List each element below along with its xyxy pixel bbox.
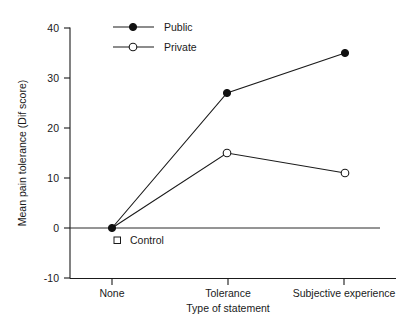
data-point-public-subjective-experience [341,49,348,56]
legend-marker-public [129,23,136,30]
y-tick-label-minus10: -10 [44,272,59,284]
data-point-private-subjective-experience [341,169,349,177]
y-tick-label-20: 20 [47,122,59,134]
figure-container: 40 30 20 10 0 -10 Mean pain tolerance (D… [0,0,411,321]
y-tick-label-10: 10 [47,172,59,184]
legend: Public Private [113,21,197,53]
x-tick-label-tolerance: Tolerance [205,287,251,299]
y-axis-ticks [64,28,70,278]
y-tick-label-0: 0 [53,222,59,234]
data-point-public-tolerance [223,89,230,96]
control-marker-icon [114,237,121,244]
y-tick-label-40: 40 [47,22,59,34]
control-annotation-label: Control [130,234,164,246]
series-markers-public [108,49,348,231]
line-chart: 40 30 20 10 0 -10 Mean pain tolerance (D… [0,0,411,321]
y-axis-title: Mean pain tolerance (Dif score) [16,80,28,226]
data-point-private-tolerance [223,149,231,157]
series-line-private [112,153,345,228]
x-tick-label-subjective-experience: Subjective experience [293,287,396,299]
y-axis-tick-labels: 40 30 20 10 0 -10 [44,22,59,284]
x-axis-tick-labels: None Tolerance Subjective experience [99,287,395,299]
legend-label-private: Private [164,41,197,53]
legend-label-public: Public [164,21,193,33]
series-line-public [112,53,345,228]
x-axis-title: Type of statement [186,302,270,314]
legend-marker-private [129,43,137,51]
data-point-public-none [108,224,115,231]
y-tick-label-30: 30 [47,72,59,84]
x-tick-label-none: None [99,287,124,299]
control-annotation: Control [114,234,164,246]
